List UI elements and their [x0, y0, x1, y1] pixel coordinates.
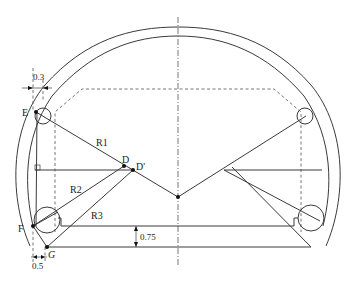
label-e: E: [22, 107, 28, 118]
r2-line: [33, 166, 124, 226]
label-f: F: [18, 223, 24, 234]
mirror-r3-line: [232, 167, 311, 247]
tunnel-cross-section-diagram: 0.3 0.5 0.75 E F G D D' R1 R2 R3: [0, 0, 355, 287]
arrow-icon: [134, 242, 138, 247]
circle-right-top: [297, 108, 313, 124]
circle-right-bottom: [298, 205, 324, 231]
arrow-icon: [134, 226, 138, 231]
r1-line: [36, 112, 178, 197]
mirror-r1-line: [178, 116, 306, 197]
label-g: G: [48, 249, 55, 260]
label-r1: R1: [96, 137, 108, 148]
dim-0-5-label: 0.5: [32, 261, 44, 271]
arrow-icon: [28, 86, 33, 90]
arrow-icon: [41, 255, 45, 259]
fg-edge: [33, 226, 47, 247]
point-center: [176, 195, 180, 199]
point-e: [34, 110, 38, 114]
label-d: D: [122, 154, 129, 165]
arrow-icon: [33, 255, 37, 259]
point-f: [31, 224, 35, 228]
point-d-prime: [131, 168, 135, 172]
f-inner: [33, 212, 58, 226]
label-r3: R3: [91, 210, 103, 221]
label-d-prime: D': [136, 161, 145, 172]
e-to-f-inner-arc: [36, 112, 37, 226]
upper-floor-line-right: [178, 218, 298, 226]
dim-0-75-label: 0.75: [140, 232, 156, 242]
right-angle-mark: [35, 165, 40, 170]
upper-floor-line: [58, 218, 178, 226]
outer-lining-arc: [16, 27, 340, 246]
label-r2: R2: [70, 184, 82, 195]
mirror-r2-line: [224, 170, 320, 221]
dim-0-3-label: 0.3: [33, 72, 45, 82]
